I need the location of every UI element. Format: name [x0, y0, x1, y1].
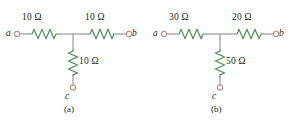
terminal-node-a-icon	[161, 31, 166, 36]
resistance-label-r3: 50 Ω	[226, 57, 246, 67]
resistor-symbol-r1	[30, 30, 58, 39]
terminal-node-c-icon	[217, 85, 222, 90]
terminal-label-b: b	[279, 29, 284, 39]
resistance-label-r2: 20 Ω	[232, 13, 252, 23]
resistance-label-r1: 10 Ω	[22, 13, 42, 23]
resistor-symbol-r2	[88, 30, 116, 39]
terminal-label-a: a	[153, 29, 158, 39]
terminal-node-b-icon	[273, 31, 278, 36]
terminal-node-a-icon	[14, 31, 19, 36]
terminal-node-b-icon	[126, 31, 131, 36]
resistance-label-r2: 10 Ω	[85, 13, 105, 23]
resistance-label-r1: 30 Ω	[169, 13, 189, 23]
circuit-diagram-b: 30 Ω 20 Ω 50 Ω a b c (b)	[147, 0, 294, 123]
terminal-label-c: c	[65, 92, 69, 102]
resistor-symbol-r3	[69, 49, 78, 77]
resistor-symbol-r2	[235, 30, 263, 39]
subfigure-caption-b: (b)	[211, 105, 222, 114]
resistor-symbol-r1	[177, 30, 205, 39]
terminal-node-c-icon	[70, 85, 75, 90]
terminal-label-a: a	[6, 29, 11, 39]
circuit-diagram-a: 10 Ω 10 Ω 10 Ω a b c (a)	[0, 0, 147, 123]
subfigure-caption-a: (a)	[64, 105, 74, 114]
terminal-label-c: c	[212, 92, 216, 102]
resistance-label-r3: 10 Ω	[79, 57, 99, 67]
figure-root: 10 Ω 10 Ω 10 Ω a b c (a) 30 Ω 20 Ω 50 Ω …	[0, 0, 294, 123]
terminal-label-b: b	[132, 29, 137, 39]
resistor-symbol-r3	[216, 49, 225, 77]
